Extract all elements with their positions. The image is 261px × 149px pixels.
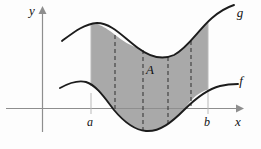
y-axis-arrowhead (39, 6, 47, 14)
x-axis-arrowhead (236, 105, 244, 113)
label-curve-f: f (239, 73, 245, 88)
label-y-axis: y (27, 3, 35, 18)
label-x-axis: x (234, 114, 241, 129)
label-bound-b: b (204, 115, 210, 129)
label-curve-g: g (237, 5, 244, 20)
figure-container: g f A a b x y (0, 0, 261, 149)
label-bound-a: a (87, 115, 93, 129)
area-between-curves-figure: g f A a b x y (0, 0, 261, 149)
label-region-A: A (145, 62, 154, 77)
